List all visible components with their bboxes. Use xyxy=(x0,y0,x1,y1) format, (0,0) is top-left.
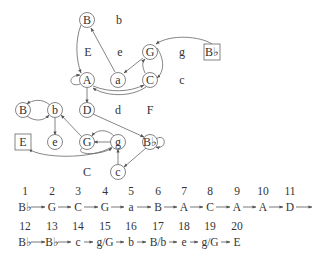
region-label: b xyxy=(116,13,122,27)
node-label: E xyxy=(19,135,26,149)
step-chord: g/G xyxy=(96,236,113,249)
step-chord: B♭ xyxy=(18,201,32,213)
step-number: 16 xyxy=(125,220,137,232)
edge-g-E xyxy=(29,147,112,156)
node-c2: c xyxy=(111,165,126,180)
edge-b-B xyxy=(27,100,50,105)
node-G: G xyxy=(143,45,158,60)
node-label: b xyxy=(52,103,58,117)
node-g2: g xyxy=(111,135,126,150)
node-D: D xyxy=(80,103,95,118)
node-B: B xyxy=(80,13,95,28)
node-label: B♭ xyxy=(143,135,157,149)
step-chord: e xyxy=(181,236,186,248)
region-label: c xyxy=(179,73,184,87)
region-label: E xyxy=(84,45,91,59)
step-chord: A xyxy=(233,201,242,213)
node-label: B xyxy=(19,103,27,117)
node-label: B xyxy=(83,13,91,27)
upper-graph-nodes: BAaGCDB♭ xyxy=(80,13,221,118)
step-number: 14 xyxy=(72,220,84,232)
edge-A-self xyxy=(71,75,80,85)
node-Bb2: B♭ xyxy=(143,135,158,150)
step-chord: G xyxy=(48,201,56,213)
node-e2: e xyxy=(48,135,63,150)
edge-Bb-G xyxy=(156,37,212,44)
node-label: G xyxy=(146,45,155,59)
edge-B-A xyxy=(77,25,81,73)
node-E2: E xyxy=(15,134,31,150)
step-chord: B♭ xyxy=(45,236,59,248)
node-label: A xyxy=(83,73,92,87)
node-B2: B xyxy=(16,103,31,118)
step-number: 20 xyxy=(231,220,243,232)
edge-G-b xyxy=(61,115,82,137)
step-chord: C xyxy=(74,201,82,213)
step-chord: B/b xyxy=(150,236,167,248)
step-number: 9 xyxy=(234,185,240,197)
step-chord: g/G xyxy=(201,236,218,249)
edge-a-B xyxy=(91,28,115,72)
step-number: 6 xyxy=(155,185,161,197)
step-number: 5 xyxy=(128,185,134,197)
node-label: a xyxy=(115,73,121,87)
step-number: 2 xyxy=(49,185,55,197)
node-A: A xyxy=(80,73,95,88)
step-number: 1 xyxy=(22,185,28,197)
step-chord: B xyxy=(154,201,162,213)
node-G2: G xyxy=(80,135,95,150)
edge-D-Bb xyxy=(93,114,144,137)
node-Bb: B♭ xyxy=(204,44,220,60)
lower-graph-labels: C xyxy=(83,165,91,179)
step-number: 17 xyxy=(152,220,164,232)
step-chord: c xyxy=(75,236,80,248)
node-label: G xyxy=(83,135,92,149)
step-number: 3 xyxy=(75,185,81,197)
step-chord: D xyxy=(286,201,294,213)
step-chord: a xyxy=(128,201,133,213)
upper-graph-edges xyxy=(71,25,212,103)
node-label: D xyxy=(83,103,92,117)
step-number: 13 xyxy=(46,220,58,232)
region-label: d xyxy=(115,103,121,117)
sequence-row-1: 1B♭2G3C4G5a6B7A8C9A10A11D xyxy=(18,185,312,213)
step-number: 7 xyxy=(181,185,187,197)
node-label: g xyxy=(115,135,121,149)
region-label: F xyxy=(147,103,154,117)
step-number: 12 xyxy=(19,220,31,232)
node-C: C xyxy=(143,73,158,88)
step-number: 8 xyxy=(207,185,213,197)
step-number: 11 xyxy=(284,185,295,197)
edge-C-G xyxy=(143,59,145,73)
edge-g-G-arc xyxy=(92,131,114,136)
region-label: C xyxy=(83,165,91,179)
step-chord: B♭ xyxy=(18,236,32,248)
step-chord: E xyxy=(233,236,240,248)
region-label: g xyxy=(179,45,185,59)
step-number: 10 xyxy=(257,185,269,197)
node-b2: b xyxy=(48,103,63,118)
region-label: e xyxy=(117,45,122,59)
step-chord: A xyxy=(180,201,189,213)
edge-B-b xyxy=(27,115,49,120)
step-chord: A xyxy=(259,201,268,213)
step-chord: C xyxy=(206,201,214,213)
node-label: B♭ xyxy=(205,45,219,59)
tonnetz-diagram: BAaGCDB♭ bEegcdF BbEeGgB♭c C 1B♭2G3C4G5a… xyxy=(0,0,324,261)
sequence-row-2: 12B♭13B♭14c15g/G16b17B/b18e19g/G20E xyxy=(18,220,243,249)
step-number: 15 xyxy=(99,220,111,232)
node-label: c xyxy=(115,165,120,179)
node-label: C xyxy=(146,73,154,87)
edge-Bb-c xyxy=(124,148,146,167)
step-chord: G xyxy=(101,201,109,213)
step-chord: b xyxy=(128,236,134,248)
step-number: 19 xyxy=(204,220,216,232)
step-number: 4 xyxy=(102,185,108,197)
edge-G-a xyxy=(124,58,143,73)
node-a: a xyxy=(111,73,126,88)
node-label: e xyxy=(52,135,57,149)
step-number: 18 xyxy=(178,220,190,232)
